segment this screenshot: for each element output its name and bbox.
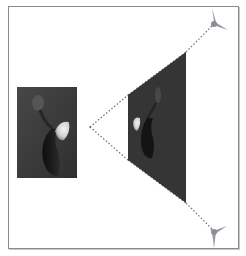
vanishing-handle-top-icon[interactable] [210, 8, 228, 30]
projected-photo [128, 52, 186, 203]
vanishing-handle-bottom-icon[interactable] [210, 226, 227, 248]
source-photo [17, 87, 77, 178]
diagram-canvas: Perspective projection of image [0, 0, 246, 256]
diagram-scene [0, 0, 246, 256]
projection-vertex [89, 126, 91, 128]
